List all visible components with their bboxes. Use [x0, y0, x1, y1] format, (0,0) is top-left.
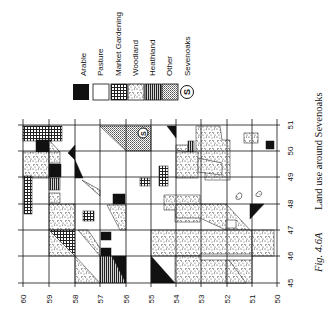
- legend-item-sevenoaks: S Sevenoaks: [181, 36, 194, 98]
- arable-parcel: [101, 248, 111, 256]
- arable-parcel: [75, 160, 83, 178]
- woodland-parcel: [107, 205, 126, 230]
- heathland-parcel: [49, 178, 60, 190]
- grid-label: 49: [286, 172, 295, 181]
- woodland-swatch: [128, 84, 144, 100]
- woodland-parcel: [176, 152, 198, 178]
- arable-parcel: [266, 141, 274, 149]
- heathland-swatch: [145, 84, 161, 100]
- caption-text: Land use around Sevenoaks: [313, 92, 324, 210]
- legend-item-arable: Arable: [73, 52, 89, 100]
- market-gardening-parcel: [159, 166, 168, 186]
- grid-label: 58: [71, 294, 80, 303]
- grid-label: 50: [273, 294, 282, 303]
- grid-label: 52: [223, 294, 232, 303]
- arable-parcel: [151, 256, 175, 283]
- map-parcels: [23, 126, 274, 283]
- woodland-parcel: [49, 204, 75, 230]
- other-swatch: [162, 84, 178, 100]
- grid-label: 56: [122, 294, 131, 303]
- woodland-parcel: [176, 204, 250, 230]
- market-gardening-swatch: [111, 84, 127, 100]
- figure-caption: Fig. 4.6A Land use around Sevenoaks: [313, 92, 324, 273]
- grid-label: 45: [286, 278, 295, 287]
- grid-label: 51: [248, 294, 257, 303]
- market-gardening-parcel: [23, 126, 62, 141]
- market-gardening-parcel: [83, 211, 94, 221]
- legend-label: Other: [165, 56, 174, 76]
- legend-label: Pasture: [96, 48, 105, 76]
- pasture-swatch: [93, 84, 109, 100]
- grid-label: 57: [96, 294, 105, 303]
- woodland-blob: [236, 193, 242, 200]
- grid-label: 46: [286, 251, 295, 260]
- arable-parcel: [49, 164, 61, 177]
- woodland-parcel: [78, 230, 100, 256]
- caption-label: Fig. 4.6A: [313, 232, 324, 273]
- woodland-blob: [256, 191, 262, 196]
- grid-label: 51: [286, 120, 295, 129]
- legend-label: Arable: [79, 52, 88, 76]
- x-grid-labels: 60 59 58 57 56 55 54 53 52 51 50: [19, 294, 282, 303]
- woodland-parcel: [151, 230, 252, 256]
- woodland-parcel: [49, 152, 60, 163]
- grid-label: 54: [172, 294, 181, 303]
- legend-item-market-gardening: Market Gardening: [111, 12, 127, 100]
- legend-item-woodland: Woodland: [128, 40, 144, 100]
- woodland-parcel: [244, 133, 258, 143]
- legend-item-other: Other: [162, 56, 178, 100]
- y-grid-labels: 51 50 49 48 47 46 45: [286, 120, 295, 287]
- grid-label: 59: [45, 294, 54, 303]
- grid-label: 48: [286, 199, 295, 208]
- arable-parcel: [101, 232, 111, 240]
- woodland-parcel: [23, 152, 49, 178]
- pasture-parcel: [226, 220, 236, 228]
- sevenoaks-marker: S: [138, 128, 148, 138]
- woodland-parcel: [75, 256, 100, 283]
- market-gardening-parcel: [140, 178, 150, 186]
- legend-label: Heathland: [148, 40, 157, 76]
- woodland-parcel: [49, 193, 60, 203]
- arable-parcel: [167, 126, 176, 138]
- grid-label: 53: [197, 294, 206, 303]
- pasture-strip: [200, 254, 252, 260]
- arable-swatch: [73, 84, 89, 100]
- legend-label: Woodland: [131, 40, 140, 76]
- woodland-parcel: [82, 180, 100, 196]
- grid-label: 55: [147, 294, 156, 303]
- grid-label: 50: [286, 146, 295, 155]
- heathland-parcel: [188, 141, 194, 152]
- legend-label: Market Gardening: [114, 12, 123, 76]
- legend: Arable Pasture Market Gardening Woodland…: [73, 12, 194, 100]
- arable-parcel: [113, 194, 125, 204]
- land-use-map-figure: Arable Pasture Market Gardening Woodland…: [0, 0, 335, 319]
- arable-parcel: [68, 145, 75, 160]
- town-marker-glyph: S: [182, 89, 192, 95]
- woodland-parcel: [252, 230, 274, 256]
- legend-label: Sevenoaks: [183, 36, 192, 76]
- grid-label: 47: [286, 225, 295, 234]
- grid-label: 60: [19, 294, 28, 303]
- market-gardening-parcel: [24, 176, 32, 214]
- legend-item-heathland: Heathland: [145, 40, 161, 100]
- town-marker-glyph: S: [140, 131, 147, 136]
- legend-item-pasture: Pasture: [93, 48, 109, 100]
